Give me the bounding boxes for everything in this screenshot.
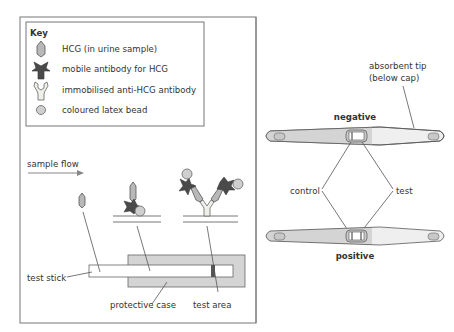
key-label-mobile-antibody: mobile antibody for HCG bbox=[62, 64, 168, 74]
test-area-label: test area bbox=[193, 300, 231, 310]
test-stick-label: test stick bbox=[27, 273, 66, 283]
absorbent-tip-leader bbox=[403, 86, 414, 128]
key-box: Key HCG (in urine sample) mobile antibod… bbox=[26, 22, 204, 126]
protective-case-label: protective case bbox=[110, 300, 176, 310]
negative-label: negative bbox=[334, 112, 377, 122]
key-label-hcg: HCG (in urine sample) bbox=[62, 44, 157, 54]
sample-flow-label: sample flow bbox=[27, 159, 79, 169]
control-label: control bbox=[290, 186, 320, 196]
immobilised-capture-complex bbox=[179, 169, 243, 222]
test-label: test bbox=[396, 186, 413, 196]
pregnancy-test-diagram: Key HCG (in urine sample) mobile antibod… bbox=[0, 0, 454, 332]
key-title: Key bbox=[30, 28, 48, 38]
positive-test-stick bbox=[266, 227, 444, 245]
absorbent-tip-label-1: absorbent tip bbox=[369, 61, 427, 71]
hcg-mobile-antibody-complex bbox=[113, 182, 161, 222]
latex-bead-icon bbox=[37, 106, 46, 115]
key-label-immobilised-antibody: immobilised anti-HCG antibody bbox=[62, 85, 196, 95]
positive-label: positive bbox=[336, 251, 375, 261]
absorbent-tip-label-2: (below cap) bbox=[369, 73, 419, 83]
negative-test-stick bbox=[266, 127, 444, 145]
sample-flow-arrow-icon bbox=[28, 170, 84, 176]
hcg-molecule bbox=[79, 193, 85, 208]
window-leader-lines bbox=[322, 142, 393, 232]
key-label-latex-bead: coloured latex bead bbox=[62, 105, 147, 115]
